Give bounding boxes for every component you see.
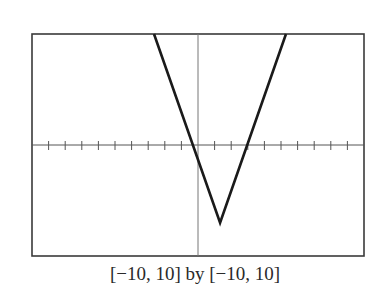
absolute-value-curve bbox=[154, 34, 286, 223]
graph-window bbox=[0, 0, 390, 299]
window-caption: [−10, 10] by [−10, 10] bbox=[0, 263, 390, 285]
